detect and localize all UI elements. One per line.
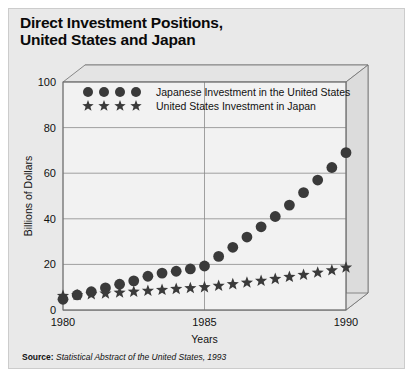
x-tick-label: 1990: [334, 316, 358, 328]
y-axis-label: Billions of Dollars: [22, 156, 34, 237]
data-point-circle: [171, 266, 182, 277]
data-point-circle: [326, 162, 337, 173]
data-point-circle: [199, 261, 210, 272]
legend-label: United States Investment in Japan: [156, 100, 316, 112]
legend-marker-circle: [115, 87, 125, 97]
legend-marker-circle: [83, 87, 93, 97]
y-tick-label: 20: [44, 258, 56, 270]
data-point-circle: [284, 200, 295, 211]
legend-label: Japanese Investment in the United States: [156, 86, 350, 98]
data-point-circle: [157, 268, 168, 279]
y-axis-tick-labels: 020406080100: [38, 76, 56, 316]
x-axis-tick-labels: 198019851990: [51, 316, 358, 328]
y-tick-label: 0: [50, 304, 56, 316]
chart-plot-area: 020406080100 198019851990 Billions of Do…: [0, 0, 417, 381]
x-tick-label: 1980: [51, 316, 75, 328]
y-tick-label: 60: [44, 167, 56, 179]
x-tick-label: 1985: [192, 316, 216, 328]
legend-marker-circle: [131, 87, 141, 97]
source-label: Source:: [22, 352, 54, 362]
data-point-circle: [143, 271, 154, 282]
data-point-circle: [227, 242, 238, 253]
data-point-circle: [341, 147, 352, 158]
scatter-chart-svg: 020406080100 198019851990 Billions of Do…: [0, 0, 417, 381]
data-point-circle: [312, 175, 323, 186]
x-axis-label: Years: [191, 333, 217, 345]
data-point-circle: [213, 251, 224, 262]
source-note: Source: Statistical Abstract of the Unit…: [22, 352, 226, 362]
data-point-circle: [256, 221, 267, 232]
y-tick-label: 40: [44, 213, 56, 225]
y-tick-label: 80: [44, 122, 56, 134]
data-point-circle: [242, 232, 253, 243]
data-point-circle: [270, 211, 281, 222]
data-point-circle: [185, 264, 196, 275]
source-text: Statistical Abstract of the United State…: [56, 352, 226, 362]
legend-marker-circle: [99, 87, 109, 97]
chart-page: Direct Investment Positions, United Stat…: [0, 0, 417, 381]
y-tick-label: 100: [38, 76, 56, 88]
data-point-circle: [128, 275, 139, 286]
data-point-circle: [298, 187, 309, 198]
